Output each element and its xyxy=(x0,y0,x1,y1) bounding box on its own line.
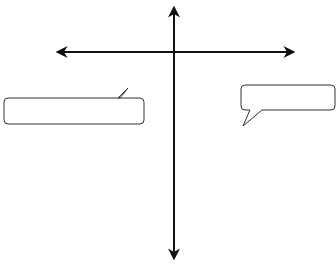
callout-g xyxy=(0,0,144,124)
graph xyxy=(0,0,336,265)
